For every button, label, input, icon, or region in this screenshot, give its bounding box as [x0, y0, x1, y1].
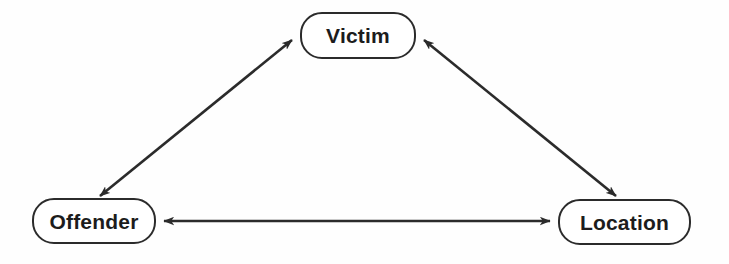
node-location[interactable]: Location: [558, 199, 691, 245]
edge-victim-location: [424, 40, 616, 196]
edge-offender-victim: [100, 40, 292, 196]
node-offender[interactable]: Offender: [32, 198, 156, 244]
node-victim[interactable]: Victim: [300, 12, 416, 59]
node-victim-label: Victim: [326, 25, 390, 46]
node-location-label: Location: [580, 212, 669, 233]
node-offender-label: Offender: [49, 211, 138, 232]
crime-triangle-diagram: Victim Offender Location: [0, 0, 729, 264]
